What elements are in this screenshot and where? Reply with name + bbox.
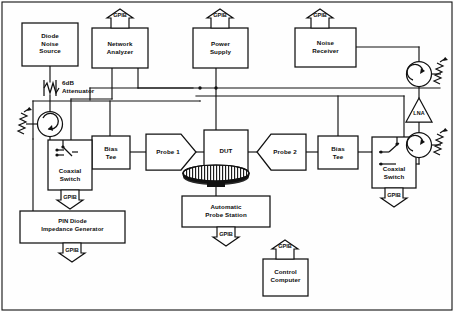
box-bias-tee-2[interactable] — [318, 136, 358, 169]
box-noise-receiver[interactable] — [295, 28, 356, 67]
box-network-analyzer[interactable] — [92, 28, 148, 68]
shape-probe-1[interactable] — [146, 134, 196, 170]
box-power-supply[interactable] — [193, 28, 248, 68]
box-coaxial-switch-1[interactable] — [48, 140, 92, 190]
diagram-svg — [0, 0, 454, 312]
shape-lna[interactable] — [406, 98, 432, 122]
box-diode-noise-source[interactable] — [22, 23, 78, 66]
gpib-arrow-power-supply[interactable] — [207, 9, 233, 28]
gpib-arrow-coaxial-switch-2[interactable] — [381, 188, 407, 207]
gpib-arrow-pin-diode-impedance-generator[interactable] — [59, 243, 85, 262]
block-diagram-canvas: Diode Noise Source 6dB Attenuator Networ… — [0, 0, 454, 312]
symbol-termination-upper-right — [434, 58, 446, 84]
symbol-circulator-input — [38, 112, 63, 137]
wafer-chuck — [183, 165, 249, 187]
box-bias-tee-1[interactable] — [92, 136, 130, 169]
symbol-termination-input — [18, 108, 30, 134]
gpib-arrow-control-computer[interactable] — [272, 240, 298, 259]
box-control-computer[interactable] — [263, 259, 308, 296]
gpib-arrow-noise-receiver[interactable] — [307, 9, 333, 28]
symbol-attenuator — [44, 80, 59, 96]
symbol-termination-lower-right — [434, 129, 446, 155]
box-automatic-probe-station[interactable] — [182, 196, 270, 227]
gpib-arrow-network-analyzer[interactable] — [107, 9, 133, 28]
shape-probe-2[interactable] — [257, 134, 306, 170]
gpib-arrow-automatic-probe-station[interactable] — [213, 227, 239, 246]
gpib-arrow-coaxial-switch-1[interactable] — [57, 190, 83, 209]
box-pin-diode-impedance-generator[interactable] — [20, 211, 125, 243]
